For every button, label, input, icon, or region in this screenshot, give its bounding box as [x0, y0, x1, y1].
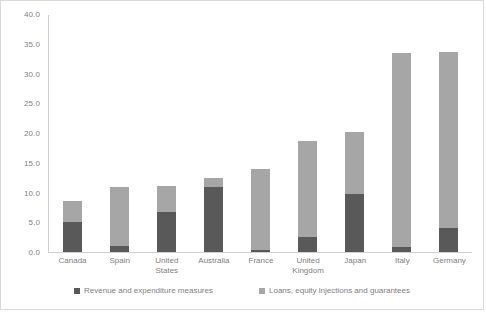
bar-group	[52, 15, 93, 252]
y-tick-label: 25.0	[24, 100, 40, 108]
bar-segment-revenue-expenditure[interactable]	[157, 212, 176, 252]
x-tick-label: Italy	[382, 256, 423, 282]
legend-swatch-icon	[259, 288, 265, 294]
x-tick-label: Japan	[335, 256, 376, 282]
bar-group	[240, 15, 281, 252]
x-axis-tick-labels: CanadaSpainUnited StatesAustraliaFranceU…	[49, 256, 473, 282]
bar-segment-loans-equity-guarantees[interactable]	[157, 186, 176, 212]
y-tick-label: 0.0	[29, 249, 40, 257]
y-tick-label: 40.0	[24, 11, 40, 19]
bar-stack[interactable]	[392, 53, 411, 252]
y-tick-label: 15.0	[24, 160, 40, 168]
bar-stack[interactable]	[204, 178, 223, 252]
x-tick-label: France	[240, 256, 281, 282]
y-tick-label: 20.0	[24, 130, 40, 138]
bar-stack[interactable]	[298, 141, 317, 252]
chart-legend: Revenue and expenditure measuresLoans, e…	[1, 286, 483, 295]
legend-item[interactable]: Loans, equity injections and guarantees	[259, 286, 410, 295]
bar-segment-revenue-expenditure[interactable]	[63, 222, 82, 252]
bar-stack[interactable]	[345, 132, 364, 252]
bar-segment-revenue-expenditure[interactable]	[392, 247, 411, 252]
x-tick-label: Spain	[99, 256, 140, 282]
plot-area	[48, 15, 472, 253]
bar-group	[334, 15, 375, 252]
bar-segment-revenue-expenditure[interactable]	[110, 246, 129, 252]
x-axis-line	[48, 252, 472, 253]
legend-label: Loans, equity injections and guarantees	[269, 286, 410, 295]
legend-item[interactable]: Revenue and expenditure measures	[74, 286, 213, 295]
x-tick-label: Germany	[429, 256, 470, 282]
chart-frame: 40.035.030.025.020.015.010.05.00.0 Canad…	[0, 0, 484, 310]
y-tick-label: 10.0	[24, 190, 40, 198]
x-tick-label: Canada	[52, 256, 93, 282]
bar-group	[287, 15, 328, 252]
bar-segment-revenue-expenditure[interactable]	[204, 187, 223, 252]
bar-segment-loans-equity-guarantees[interactable]	[298, 141, 317, 237]
bar-segment-revenue-expenditure[interactable]	[298, 237, 317, 252]
x-tick-label: United States	[146, 256, 187, 282]
bar-segment-loans-equity-guarantees[interactable]	[110, 187, 129, 247]
bar-group	[428, 15, 469, 252]
bar-segment-loans-equity-guarantees[interactable]	[439, 52, 458, 229]
bar-stack[interactable]	[110, 187, 129, 252]
bar-segment-revenue-expenditure[interactable]	[345, 194, 364, 252]
bar-segment-loans-equity-guarantees[interactable]	[345, 132, 364, 194]
y-tick-label: 35.0	[24, 41, 40, 49]
y-tick-label: 5.0	[29, 219, 40, 227]
bar-group	[146, 15, 187, 252]
bar-stack[interactable]	[439, 52, 458, 253]
bar-segment-loans-equity-guarantees[interactable]	[251, 169, 270, 250]
legend-swatch-icon	[74, 288, 80, 294]
y-tick-label: 30.0	[24, 71, 40, 79]
bar-group	[99, 15, 140, 252]
y-axis-tick-labels: 40.035.030.025.020.015.010.05.00.0	[1, 15, 46, 253]
bar-segment-loans-equity-guarantees[interactable]	[392, 53, 411, 248]
bar-segment-revenue-expenditure[interactable]	[439, 228, 458, 252]
legend-label: Revenue and expenditure measures	[84, 286, 213, 295]
bar-segment-revenue-expenditure[interactable]	[251, 250, 270, 252]
x-tick-label: Australia	[193, 256, 234, 282]
bar-segment-loans-equity-guarantees[interactable]	[63, 201, 82, 221]
bar-stack[interactable]	[63, 201, 82, 252]
x-tick-label: United Kingdom	[288, 256, 329, 282]
bar-group	[381, 15, 422, 252]
bar-segment-loans-equity-guarantees[interactable]	[204, 178, 223, 187]
bar-group	[193, 15, 234, 252]
bars-layer	[49, 15, 472, 252]
bar-stack[interactable]	[157, 186, 176, 252]
bar-stack[interactable]	[251, 169, 270, 252]
